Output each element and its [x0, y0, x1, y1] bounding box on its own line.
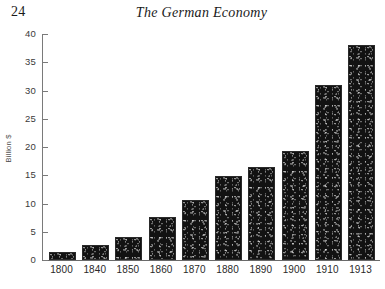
- bar: [115, 237, 142, 260]
- bar-chart: Billion $ 0510152025303540 1800184018501…: [0, 26, 385, 289]
- plot-area: 0510152025303540: [42, 34, 380, 261]
- bar-column: [215, 34, 242, 260]
- x-axis-tick-label: 1870: [181, 264, 208, 275]
- x-axis-tick-label: 1913: [347, 264, 374, 275]
- bar-column: [82, 34, 109, 260]
- bar-column: [282, 34, 309, 260]
- bar-column: [315, 34, 342, 260]
- x-axis-tick-label: 1800: [48, 264, 75, 275]
- bar-column: [182, 34, 209, 260]
- bar: [182, 200, 209, 260]
- y-tick-label: 0: [31, 254, 36, 265]
- bar: [315, 85, 342, 260]
- x-axis-tick-label: 1840: [81, 264, 108, 275]
- bar-column: [149, 34, 176, 260]
- x-axis-tick-label: 1880: [214, 264, 241, 275]
- bar: [248, 167, 275, 260]
- y-tick-label: 5: [31, 226, 36, 237]
- running-title: The German Economy: [0, 5, 385, 21]
- y-tick-label: 15: [25, 169, 36, 180]
- x-axis-tick-label: 1850: [114, 264, 141, 275]
- bar-column: [348, 34, 375, 260]
- x-axis-tick-label: 1890: [247, 264, 274, 275]
- bar: [149, 217, 176, 260]
- y-tick-label: 10: [25, 198, 36, 209]
- y-tick-label: 40: [25, 28, 36, 39]
- page-header: 24 The German Economy: [0, 4, 385, 24]
- y-axis-label: Billion $: [4, 119, 13, 179]
- y-tick-mark: [43, 260, 48, 261]
- y-tick-label: 30: [25, 85, 36, 96]
- bar-column: [115, 34, 142, 260]
- bar: [215, 176, 242, 260]
- bar: [82, 245, 109, 260]
- bar: [348, 45, 375, 260]
- y-tick-label: 20: [25, 141, 36, 152]
- y-tick-label: 35: [25, 56, 36, 67]
- bar-series: [43, 34, 380, 260]
- bar: [49, 252, 76, 260]
- bar-column: [49, 34, 76, 260]
- x-axis-tick-label: 1900: [281, 264, 308, 275]
- x-axis-labels: 1800184018501860187018801890190019101913: [42, 264, 379, 275]
- x-axis-tick-label: 1910: [314, 264, 341, 275]
- bar: [282, 151, 309, 260]
- x-axis-tick-label: 1860: [148, 264, 175, 275]
- y-tick-label: 25: [25, 113, 36, 124]
- bar-column: [248, 34, 275, 260]
